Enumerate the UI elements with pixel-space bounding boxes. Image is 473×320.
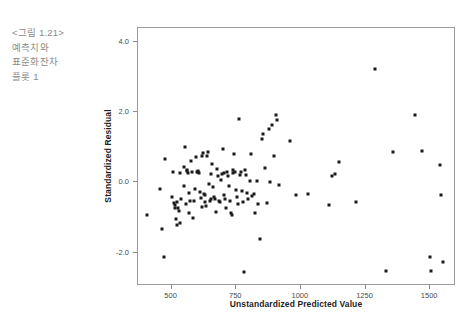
scatter-point xyxy=(241,200,244,203)
scatter-point xyxy=(259,238,262,241)
scatter-point xyxy=(183,145,186,148)
scatter-point xyxy=(219,178,222,181)
scatter-point xyxy=(327,203,330,206)
y-tick-label: -2.0 xyxy=(105,247,129,256)
scatter-point xyxy=(267,128,270,131)
scatter-point xyxy=(277,183,280,186)
scatter-point xyxy=(306,193,309,196)
scatter-point xyxy=(242,270,245,273)
scatter-point xyxy=(211,163,214,166)
scatter-point xyxy=(262,133,265,136)
x-tick-mark xyxy=(171,285,172,289)
scatter-point xyxy=(264,167,267,170)
scatter-point xyxy=(224,197,227,200)
scatter-point xyxy=(222,171,225,174)
scatter-point xyxy=(254,211,257,214)
x-tick-label: 1500 xyxy=(409,291,449,300)
scatter-point xyxy=(174,217,177,220)
scatter-point xyxy=(229,200,232,203)
scatter-point xyxy=(331,175,334,178)
scatter-point xyxy=(420,150,423,153)
scatter-point xyxy=(265,201,268,204)
scatter-point xyxy=(269,180,272,183)
scatter-point xyxy=(247,198,250,201)
x-tick-mark xyxy=(300,285,301,289)
y-tick-mark xyxy=(133,111,137,112)
scatter-point xyxy=(212,185,215,188)
scatter-point xyxy=(214,210,217,213)
scatter-point xyxy=(163,255,166,258)
y-tick-mark xyxy=(133,252,137,253)
scatter-point xyxy=(201,154,204,157)
scatter-point xyxy=(257,203,260,206)
scatter-point xyxy=(355,200,358,203)
scatter-point xyxy=(164,158,167,161)
scatter-point xyxy=(216,168,219,171)
x-axis-title: Unstandardized Predicted Value xyxy=(230,299,362,309)
scatter-point xyxy=(198,191,201,194)
x-tick-mark xyxy=(429,285,430,289)
scatter-point xyxy=(186,172,189,175)
scatter-point xyxy=(233,152,236,155)
scatter-point xyxy=(255,179,258,182)
scatter-point xyxy=(441,261,444,264)
scatter-point xyxy=(226,170,229,173)
scatter-point xyxy=(190,170,193,173)
scatter-point xyxy=(202,151,205,154)
scatter-point xyxy=(176,201,179,204)
scatter-point xyxy=(228,185,231,188)
scatter-point xyxy=(338,161,341,164)
scatter-point xyxy=(246,191,249,194)
scatter-point xyxy=(249,153,252,156)
scatter-point xyxy=(172,170,175,173)
scatter-point xyxy=(274,114,277,117)
scatter-point xyxy=(239,170,242,173)
scatter-point xyxy=(145,214,148,217)
y-tick-mark xyxy=(133,181,137,182)
scatter-point xyxy=(237,203,240,206)
scatter-point xyxy=(230,213,233,216)
scatter-point xyxy=(160,227,163,230)
scatter-point xyxy=(221,148,224,151)
scatter-point xyxy=(198,171,201,174)
scatter-point xyxy=(252,193,255,196)
scatter-point xyxy=(187,192,190,195)
y-axis-title: Standardized Residual xyxy=(103,109,113,202)
scatter-point xyxy=(385,269,388,272)
scatter-point xyxy=(248,180,251,183)
scatter-point xyxy=(179,171,182,174)
scatter-point xyxy=(210,173,213,176)
y-tick-label: 4.0 xyxy=(105,37,129,46)
scatter-point xyxy=(334,172,337,175)
scatter-point xyxy=(245,174,248,177)
scatter-point xyxy=(178,222,181,225)
scatter-point xyxy=(225,206,228,209)
scatter-point xyxy=(240,189,243,192)
x-tick-mark xyxy=(235,285,236,289)
scatter-point xyxy=(238,173,241,176)
scatter-point xyxy=(238,117,241,120)
scatter-point xyxy=(236,195,239,198)
scatter-point xyxy=(158,188,161,191)
scatter-point xyxy=(438,163,441,166)
scatter-point xyxy=(205,204,208,207)
scatter-point xyxy=(185,203,188,206)
scatter-point xyxy=(260,137,263,140)
scatter-point xyxy=(440,194,443,197)
scatter-point xyxy=(200,206,203,209)
scatter-point xyxy=(207,151,210,154)
scatter-point xyxy=(234,170,237,173)
x-tick-label: 500 xyxy=(151,291,191,300)
x-tick-mark xyxy=(365,285,366,289)
scatter-point xyxy=(429,269,432,272)
scatter-point xyxy=(289,140,292,143)
scatter-point xyxy=(295,194,298,197)
scatter-point xyxy=(194,156,197,159)
scatter-point xyxy=(199,196,202,199)
plot-frame xyxy=(137,27,455,285)
scatter-point xyxy=(180,197,183,200)
scatter-point xyxy=(272,154,275,157)
scatter-point xyxy=(429,256,432,259)
scatter-point xyxy=(234,188,237,191)
scatter-point xyxy=(276,118,279,121)
